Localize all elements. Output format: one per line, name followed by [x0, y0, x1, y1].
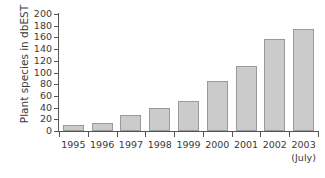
y-tick-label-text: 0 — [24, 126, 52, 136]
bar — [178, 101, 199, 131]
x-axis-line — [58, 131, 319, 132]
x-tick-mark — [232, 132, 233, 137]
y-tick-label-text: 100 — [24, 68, 52, 78]
x-tick-mark — [88, 132, 89, 137]
y-tick-label-text: 120 — [24, 56, 52, 66]
bar — [293, 29, 314, 131]
y-tick-label: 20 — [22, 114, 52, 124]
x-tick-mark — [117, 132, 118, 137]
x-tick-mark — [318, 132, 319, 137]
bar — [236, 66, 257, 131]
x-tick-mark — [203, 132, 204, 137]
bar — [120, 115, 141, 131]
y-tick-label-text: 20 — [24, 114, 52, 124]
x-tick-label: 2003 — [287, 139, 321, 150]
y-tick-label: 140 — [22, 44, 52, 54]
y-tick-label: 80 — [22, 79, 52, 89]
y-tick-label: 0 — [22, 126, 52, 136]
y-tick-label: 40 — [22, 103, 52, 113]
bar — [149, 108, 170, 131]
plot-area — [59, 14, 318, 131]
y-tick-label: 120 — [22, 56, 52, 66]
bar — [264, 39, 285, 131]
x-tick-mark — [59, 132, 60, 137]
x-tick-mark — [289, 132, 290, 137]
y-tick-label-text: 140 — [24, 44, 52, 54]
y-tick-label-text: 180 — [24, 21, 52, 31]
y-tick-label: 180 — [22, 21, 52, 31]
x-tick-mark — [174, 132, 175, 137]
y-tick-label-text: 60 — [24, 91, 52, 101]
y-tick-label-text: 80 — [24, 79, 52, 89]
y-tick-label-text: 200 — [24, 9, 52, 19]
y-tick-label-text: 160 — [24, 32, 52, 42]
bar-chart: Plant species in dbEST 02040608010012014… — [0, 0, 325, 178]
y-tick-label: 100 — [22, 68, 52, 78]
y-tick-label-text: 40 — [24, 103, 52, 113]
bar — [92, 123, 113, 131]
x-tick-mark — [260, 132, 261, 137]
bar — [63, 125, 84, 131]
bar — [207, 81, 228, 131]
x-tick-mark — [145, 132, 146, 137]
x-axis-sublabel: (July) — [287, 152, 321, 163]
y-tick-label: 160 — [22, 32, 52, 42]
y-tick-label: 60 — [22, 91, 52, 101]
y-tick-label: 200 — [22, 9, 52, 19]
